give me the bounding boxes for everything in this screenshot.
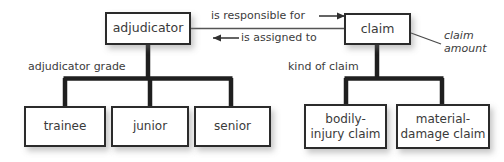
entity-box-bodily-injury-claim[interactable]: bodily- injury claim (304, 104, 387, 149)
entity-box-trainee[interactable]: trainee (24, 106, 106, 147)
entity-label-trainee: trainee (26, 119, 104, 133)
edge-label-kind-of-claim: kind of claim (288, 60, 359, 73)
claim-amount-leader-line (411, 33, 441, 44)
annotation-claim-amount: claim amount (444, 29, 486, 56)
entity-box-senior[interactable]: senior (194, 106, 271, 147)
entity-box-adjudicator[interactable]: adjudicator (105, 12, 191, 45)
entity-box-material-damage-claim[interactable]: material- damage claim (396, 104, 490, 149)
entity-label-junior: junior (113, 119, 187, 133)
entity-box-claim[interactable]: claim (344, 13, 411, 45)
entity-label-bodily-injury-claim: bodily- injury claim (306, 112, 385, 140)
generalization-tree-adjudicator (64, 45, 233, 107)
arrow-right-icon (319, 13, 345, 20)
edge-label-is-responsible-for: is responsible for (211, 9, 305, 22)
entity-relationship-diagram: adjudicator claim trainee junior senior … (0, 0, 504, 162)
edge-label-is-assigned-to: is assigned to (241, 31, 317, 44)
entity-label-material-damage-claim: material- damage claim (398, 112, 488, 140)
entity-label-senior: senior (196, 119, 269, 133)
entity-label-adjudicator: adjudicator (107, 21, 189, 36)
entity-box-junior[interactable]: junior (111, 106, 189, 147)
entity-label-claim: claim (346, 22, 409, 37)
generalization-tree-claim (345, 45, 444, 105)
edge-label-adjudicator-grade: adjudicator grade (28, 60, 126, 73)
arrow-left-icon (213, 35, 239, 42)
